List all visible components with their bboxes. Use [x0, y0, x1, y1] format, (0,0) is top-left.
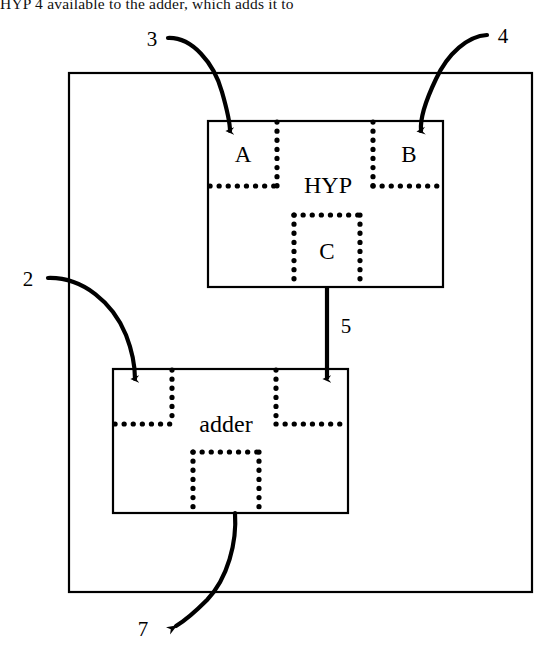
figure-container: HYP 4 available to the adder, which adds…	[0, 0, 555, 664]
block-diagram: A B C HYP	[0, 0, 555, 664]
signal-4-label: 4	[498, 24, 509, 48]
hyp-port-c-label: C	[319, 239, 334, 264]
signal-3-label: 3	[147, 27, 158, 51]
signal-5: 5	[327, 287, 351, 379]
hyp-port-a-label: A	[235, 142, 252, 167]
signal-2-label: 2	[23, 267, 34, 291]
signal-7: 7	[138, 513, 236, 641]
signal-7-arrow	[176, 513, 235, 626]
signal-4: 4	[421, 24, 509, 131]
signal-5-label: 5	[341, 314, 352, 338]
signal-2-arrow	[48, 278, 135, 379]
signal-4-arrow	[421, 35, 487, 131]
hyp-block-label: HYP	[304, 172, 352, 198]
signal-7-label: 7	[138, 617, 149, 641]
signal-3: 3	[147, 27, 230, 131]
adder-block-rect	[113, 369, 348, 513]
signal-2: 2	[23, 267, 135, 379]
hyp-port-b-label: B	[401, 142, 416, 167]
adder-block-label: adder	[199, 411, 252, 437]
signal-3-arrow	[168, 38, 230, 131]
